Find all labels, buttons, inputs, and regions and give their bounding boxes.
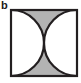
square-with-two-arcs-diagram [9,8,79,78]
figure-panel: b [0,0,81,83]
panel-label: b [1,0,8,11]
